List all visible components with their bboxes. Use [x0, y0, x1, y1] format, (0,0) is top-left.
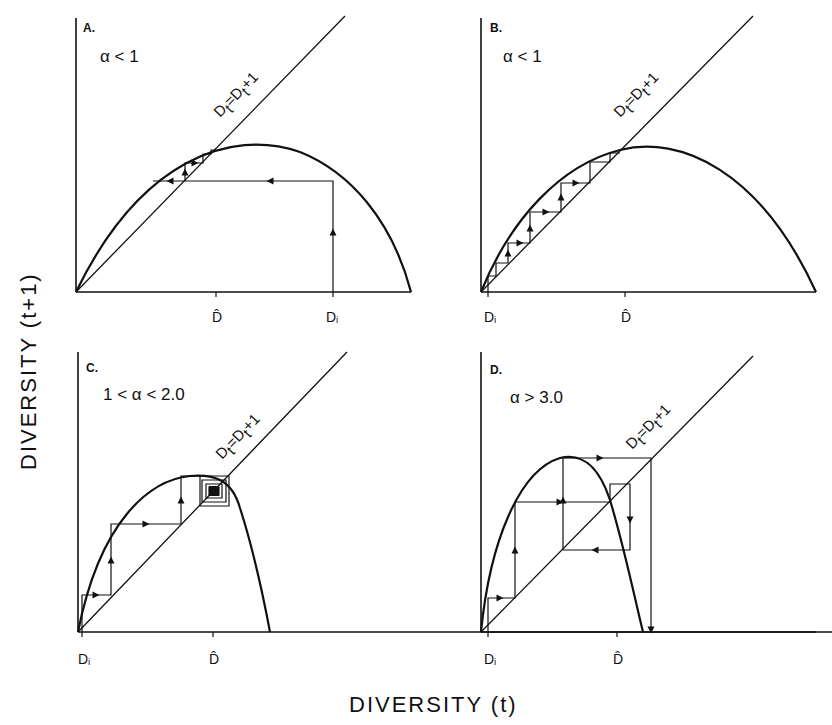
panel-letter: B.	[490, 21, 502, 35]
panel-c: DᵢD̂C.1 < α < 2.0Dt=Dt+1	[78, 352, 832, 667]
arrowhead-icon	[543, 209, 550, 216]
svg-text:Dt=Dt+1: Dt=Dt+1	[622, 400, 677, 455]
svg-text:Dt=Dt+1: Dt=Dt+1	[212, 410, 267, 466]
tick-label: Dᵢ	[78, 651, 90, 667]
arrowhead-icon	[93, 592, 100, 599]
tick-label: Dᵢ	[484, 651, 496, 667]
alpha-condition: α < 1	[100, 47, 139, 66]
arrowhead-icon	[178, 497, 185, 504]
svg-text:Dt=Dt+1: Dt=Dt+1	[210, 68, 265, 123]
cobweb-trajectory	[488, 458, 651, 632]
tick-label: D̂	[621, 309, 631, 325]
arrowhead-icon	[517, 240, 524, 247]
map-curve	[481, 147, 816, 292]
arrowhead-icon	[627, 517, 634, 524]
tick-label: D̂	[212, 309, 222, 325]
alpha-condition: α < 1	[503, 47, 542, 66]
panel-a: D̂DᵢA.α < 1Dt=Dt+1	[76, 16, 411, 325]
map-curve	[481, 457, 643, 632]
cobweb-trajectory	[153, 150, 333, 292]
arrowhead-icon	[558, 194, 565, 201]
panel-b: DᵢD̂B.α < 1Dt=Dt+1	[481, 16, 816, 325]
arrowhead-icon	[527, 225, 534, 232]
identity-line-label: Dt=Dt+1	[210, 68, 265, 123]
y-axis-title: DIVERSITY (t+1)	[16, 272, 41, 470]
arrowhead-icon	[512, 547, 519, 554]
arrowhead-icon	[108, 557, 115, 564]
identity-line-label: Dt=Dt+1	[610, 68, 665, 123]
converged-spiral-center	[209, 486, 219, 496]
arrowhead-icon	[592, 547, 599, 554]
alpha-condition: 1 < α < 2.0	[103, 385, 185, 404]
panel-letter: A.	[83, 21, 95, 35]
arrowhead-icon	[143, 521, 150, 528]
x-axis-title: DIVERSITY (t)	[349, 692, 518, 717]
identity-line-label: Dt=Dt+1	[212, 410, 267, 466]
tick-label: Dᵢ	[326, 309, 338, 325]
alpha-condition: α > 3.0	[510, 388, 563, 407]
identity-line-label: Dt=Dt+1	[622, 400, 677, 455]
arrowhead-icon	[505, 250, 512, 257]
panel-letter: D.	[490, 363, 502, 377]
arrowhead-icon	[560, 497, 567, 504]
arrowhead-icon	[192, 160, 199, 167]
arrowhead-icon	[267, 178, 274, 185]
arrowhead-icon	[330, 229, 337, 236]
svg-text:Dt=Dt+1: Dt=Dt+1	[610, 68, 665, 123]
arrowhead-icon	[497, 595, 504, 602]
cobweb-figure: D̂DᵢA.α < 1Dt=Dt+1DᵢD̂B.α < 1Dt=Dt+1DᵢD̂…	[0, 0, 832, 725]
arrowhead-icon	[597, 455, 604, 462]
cobweb-trajectory	[488, 153, 620, 292]
map-curve	[78, 476, 270, 632]
tick-label: Dᵢ	[484, 309, 496, 325]
panel-letter: C.	[86, 361, 98, 375]
arrowhead-icon	[167, 178, 174, 185]
arrowhead-icon	[182, 169, 189, 176]
arrowhead-icon	[573, 180, 580, 187]
map-curve	[76, 145, 411, 292]
tick-label: D̂	[613, 651, 623, 667]
panel-d: DᵢD̂D.α > 3.0Dt=Dt+1	[481, 352, 816, 667]
tick-label: D̂	[209, 651, 219, 667]
cobweb-trajectory	[82, 476, 229, 632]
